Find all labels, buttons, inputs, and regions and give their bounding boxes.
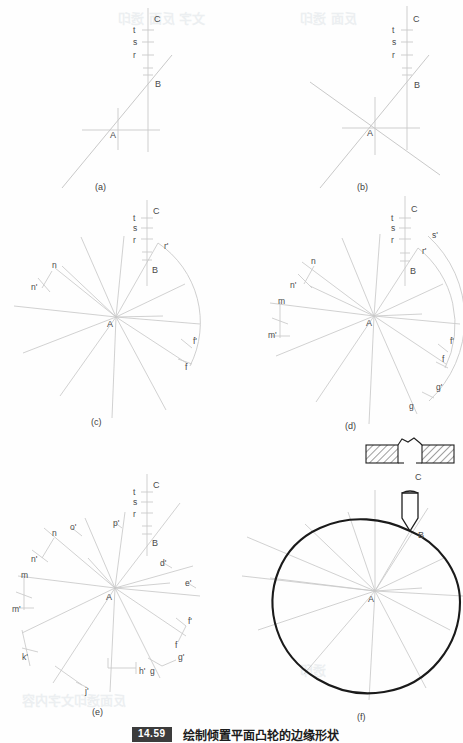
label-r-b: r (392, 50, 395, 60)
label-s-b: s (392, 37, 396, 47)
label-g-e: g (150, 666, 155, 676)
figure-sheet: 文字 反面 透印 反面 透印 反面透印文字内容 透印 C t s r B A (… (0, 0, 463, 743)
figure-caption: 14.59 绘制倾置平面凸轮的边缘形状 (0, 726, 463, 743)
label-g-prime-d: g' (436, 382, 443, 392)
label-C-f: C (415, 472, 422, 482)
label-f-prime-e: f' (188, 616, 192, 626)
panel-f: C B A (232, 430, 463, 720)
label-B-f: B (418, 530, 424, 540)
label-e-prime-e: e' (185, 578, 192, 588)
label-r-a: r (133, 50, 136, 60)
stock-edges (398, 438, 422, 463)
offset-cross-n-c (38, 278, 50, 292)
label-s-e: s (133, 497, 137, 507)
panel-caption-b: (b) (357, 182, 368, 192)
label-p-prime-e: p' (113, 518, 120, 528)
label-h-prime-e: h' (139, 666, 146, 676)
panel-e: C t s r B A n n' m m' o' p' d' e' f' f g… (0, 470, 232, 720)
panel-caption-c: (c) (91, 417, 102, 427)
figure-number-badge: 14.59 (132, 727, 172, 742)
label-s-prime-d: s' (432, 230, 438, 240)
label-C-c: C (153, 206, 160, 216)
label-n-prime-d: n' (290, 280, 297, 290)
oblique-line-a (62, 55, 172, 188)
label-g-d: g (409, 401, 414, 411)
label-s-c: s (133, 223, 137, 233)
panel-caption-a: (a) (95, 182, 106, 192)
label-j-prime-e: j' (84, 686, 89, 696)
label-t-c: t (133, 213, 136, 223)
label-s-a: s (133, 37, 137, 47)
label-m-d: m (278, 296, 285, 306)
label-r-c: r (133, 235, 136, 245)
punch-tool (402, 491, 418, 531)
inner-arc-d (418, 248, 455, 368)
label-f-e: f (175, 640, 178, 650)
label-A-b: A (367, 128, 373, 138)
label-C-a: C (154, 14, 161, 24)
label-m-e: m (21, 570, 28, 580)
label-m-prime-e: m' (12, 604, 21, 614)
panel-caption-f: (f) (357, 712, 366, 722)
panel-a: C t s r B A (0, 0, 232, 196)
label-g-prime-e: g' (178, 652, 185, 662)
label-C-d: C (411, 204, 418, 214)
label-t-d: t (391, 213, 394, 223)
label-B-e: B (152, 538, 158, 548)
label-C-b: C (413, 14, 420, 24)
label-A-c: A (107, 319, 113, 329)
label-r-prime-d: r' (422, 246, 427, 256)
label-A-d: A (366, 318, 372, 328)
label-n-c: n (52, 260, 57, 270)
label-f-prime-d: f' (450, 336, 454, 346)
construction-arc-c (158, 243, 200, 366)
label-r-prime-c: r' (164, 241, 169, 251)
radial-fan-f (242, 490, 463, 700)
label-n-d: n (311, 256, 316, 266)
label-n-prime-e: n' (31, 554, 38, 564)
label-t-b: t (392, 25, 395, 35)
label-B-b: B (414, 80, 420, 90)
label-f-prime-c: f' (193, 336, 197, 346)
label-A-e: A (106, 592, 112, 602)
die-block-left (366, 445, 398, 463)
label-A-f: A (368, 594, 374, 604)
panel-caption-e: (e) (92, 707, 103, 717)
label-B-c: B (152, 265, 158, 275)
tick-f-prime-e (176, 618, 186, 626)
label-n-e: n (52, 528, 57, 538)
die-assembly (366, 445, 454, 463)
label-n-prime-c: n' (31, 282, 38, 292)
radial-fan-d (270, 234, 460, 424)
label-r-e: r (133, 509, 136, 519)
outer-arc-d (428, 236, 463, 401)
panel-b: C t s r B A (232, 0, 463, 196)
figure-caption-text: 绘制倾置平面凸轮的边缘形状 (183, 726, 339, 743)
panel-c: C t s r B A r' f' f n n' (0, 196, 232, 428)
label-m-prime-d: m' (268, 330, 277, 340)
label-d-prime-e: d' (160, 558, 167, 568)
label-C-e: C (153, 480, 160, 490)
panel-d: C t s r B A s' r' f' f g' g n n' m m' (232, 196, 463, 436)
label-k-prime-e: k' (22, 652, 28, 662)
label-r-d: r (391, 235, 394, 245)
label-t-e: t (133, 487, 136, 497)
label-B-d: B (410, 266, 416, 276)
label-f-d: f (442, 354, 445, 364)
label-B-a: B (155, 79, 161, 89)
label-A-a: A (110, 130, 116, 140)
offset-tick-n-c (42, 271, 52, 288)
oblique-line-1-b (320, 55, 429, 188)
cam-outline-f (273, 519, 460, 693)
label-s-d: s (391, 223, 395, 233)
label-o-prime-e: o' (70, 522, 77, 532)
die-block-right (422, 445, 454, 463)
oblique-line-2-b (310, 82, 440, 175)
label-t-a: t (133, 25, 136, 35)
